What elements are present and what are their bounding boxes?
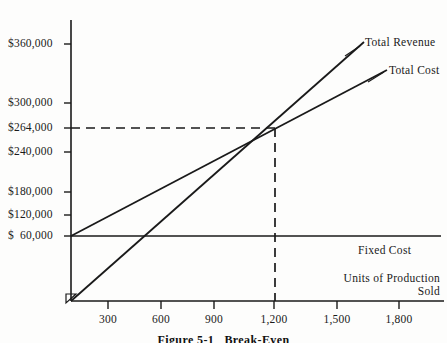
y-tick-label-360000: $360,000 xyxy=(8,37,53,49)
x-tick-label-600: 600 xyxy=(152,313,170,325)
fixed-cost-label: Fixed Cost xyxy=(358,244,411,256)
y-tick-label-60000: $ 60,000 xyxy=(8,229,53,241)
y-axis-ticks xyxy=(64,44,71,236)
total-cost-leader xyxy=(368,72,384,82)
figure-container: $360,000 $300,000 $264,000 $240,000 $180… xyxy=(0,0,447,343)
x-tick-label-1800: 1,800 xyxy=(386,313,413,325)
x-tick-label-1500: 1,500 xyxy=(324,313,351,325)
figure-caption: Figure 5-1 Break-Even xyxy=(0,333,447,343)
units-of-production-label-line2: Sold xyxy=(332,285,440,299)
y-tick-label-264000: $264,000 xyxy=(8,121,53,133)
total-revenue-line xyxy=(71,42,364,301)
total-revenue-leader xyxy=(345,46,360,56)
y-tick-label-240000: $240,000 xyxy=(8,145,53,157)
x-tick-label-300: 300 xyxy=(99,313,117,325)
x-tick-label-1200: 1,200 xyxy=(261,313,288,325)
total-revenue-label: Total Revenue xyxy=(365,36,435,48)
y-tick-label-300000: $300,000 xyxy=(8,96,53,108)
units-of-production-label-line1: Units of Production xyxy=(332,272,440,286)
y-tick-label-120000: $120,000 xyxy=(8,208,53,220)
total-cost-label: Total Cost xyxy=(389,64,439,76)
y-tick-label-180000: $180,000 xyxy=(8,185,53,197)
total-cost-line xyxy=(71,70,387,236)
x-tick-label-900: 900 xyxy=(205,313,223,325)
x-axis-ticks xyxy=(108,301,399,309)
